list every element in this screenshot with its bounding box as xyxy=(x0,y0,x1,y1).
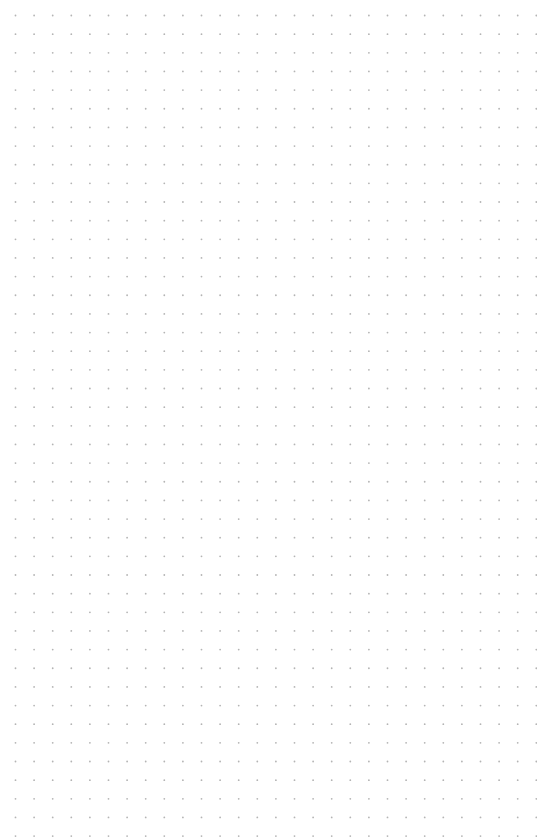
dot-grid-canvas[interactable] xyxy=(0,0,537,839)
dot-grid-pattern xyxy=(0,0,537,839)
